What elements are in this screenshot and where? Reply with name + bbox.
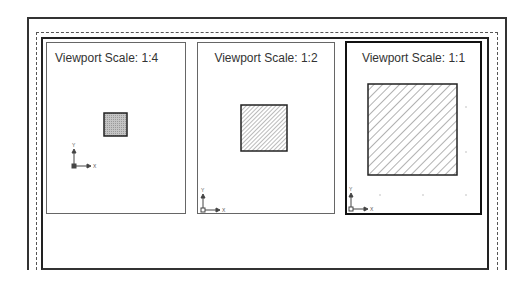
square-shape xyxy=(104,113,127,136)
ucs-icon: Y X xyxy=(72,142,97,169)
ucs-icon: Y X xyxy=(201,187,226,213)
viewport-1-1-active[interactable]: Viewport Scale: 1:1 Y X xyxy=(345,41,482,215)
svg-text:X: X xyxy=(222,207,226,213)
square-shape xyxy=(368,84,457,175)
ucs-icon: Y X xyxy=(349,186,374,212)
svg-text:X: X xyxy=(370,206,374,212)
viewport-1-2[interactable]: Viewport Scale: 1:2 Y X xyxy=(197,42,335,214)
viewport-content: Y X xyxy=(347,43,484,217)
svg-text:Y: Y xyxy=(72,142,76,148)
viewport-content: Y X xyxy=(198,43,336,215)
viewport-1-4[interactable]: Viewport Scale: 1:4 Y X xyxy=(46,42,186,214)
svg-text:X: X xyxy=(93,163,97,169)
svg-text:Y: Y xyxy=(349,186,353,192)
square-shape xyxy=(241,105,287,151)
viewport-content: Y X xyxy=(47,43,187,215)
svg-text:Y: Y xyxy=(201,187,205,193)
